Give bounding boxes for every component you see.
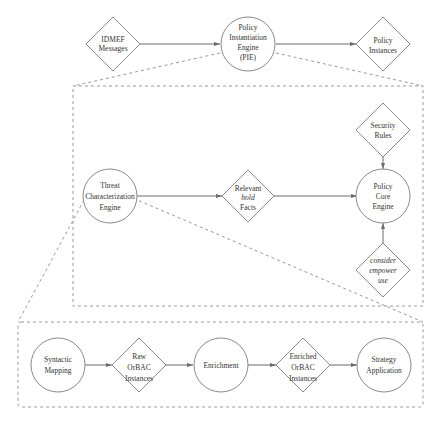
idmef-messages-node[interactable]: IDMEF Messages <box>86 17 140 71</box>
svg-text:Engine: Engine <box>372 202 394 211</box>
raw-orbac-instances-node[interactable]: Raw OrBAC Instances <box>112 338 166 392</box>
svg-text:hold: hold <box>241 193 255 202</box>
svg-text:OrBAC: OrBAC <box>127 363 150 372</box>
threat-characterization-engine-node[interactable]: Threat Characterization Engine <box>83 169 137 223</box>
strategy-application-node[interactable]: Strategy Application <box>357 338 411 392</box>
svg-text:Raw: Raw <box>132 352 146 361</box>
svg-text:Strategy: Strategy <box>372 355 397 364</box>
relevant-hold-facts-node[interactable]: Relevant hold Facts <box>222 170 274 222</box>
svg-text:Mapping: Mapping <box>44 366 71 375</box>
svg-text:Messages: Messages <box>98 44 127 53</box>
policy-instantiation-diagram: IDMEF Messages Policy Instantiation Engi… <box>0 0 442 426</box>
svg-text:Policy: Policy <box>373 36 392 45</box>
enriched-orbac-instances-node[interactable]: Enriched OrBAC Instances <box>276 338 330 392</box>
svg-text:Engine: Engine <box>99 203 121 212</box>
svg-text:Instances: Instances <box>369 46 397 55</box>
svg-text:empower: empower <box>369 266 397 275</box>
policy-core-engine-node[interactable]: Policy Core Engine <box>356 169 410 223</box>
consider-empower-use-node[interactable]: consider empower use <box>356 243 410 297</box>
svg-text:Instances: Instances <box>289 374 317 383</box>
svg-text:Facts: Facts <box>240 203 256 212</box>
pie-node[interactable]: Policy Instantiation Engine (PIE) <box>221 17 275 71</box>
svg-text:Relevant: Relevant <box>235 184 263 193</box>
svg-text:Instances: Instances <box>125 374 153 383</box>
svg-text:Characterization: Characterization <box>85 192 135 201</box>
svg-text:Rules: Rules <box>374 131 391 140</box>
svg-text:(PIE): (PIE) <box>240 53 257 62</box>
svg-text:use: use <box>378 276 389 285</box>
security-rules-node[interactable]: Security Rules <box>356 103 410 157</box>
svg-text:Security: Security <box>371 121 396 130</box>
svg-text:Policy: Policy <box>373 182 392 191</box>
svg-text:Instantiation: Instantiation <box>229 33 267 42</box>
svg-text:consider: consider <box>370 256 396 265</box>
svg-text:OrBAC: OrBAC <box>291 363 314 372</box>
syntactic-mapping-node[interactable]: Syntactic Mapping <box>31 338 85 392</box>
svg-text:Enrichment: Enrichment <box>204 361 240 370</box>
svg-text:Policy: Policy <box>238 23 257 32</box>
svg-text:Enriched: Enriched <box>289 352 316 361</box>
svg-text:Application: Application <box>366 366 402 375</box>
policy-instances-node[interactable]: Policy Instances <box>356 17 410 71</box>
svg-text:IDMEF: IDMEF <box>101 35 124 44</box>
svg-text:Syntactic: Syntactic <box>44 355 73 364</box>
svg-text:Threat: Threat <box>100 181 120 190</box>
svg-text:Core: Core <box>376 192 391 201</box>
enrichment-node[interactable]: Enrichment <box>194 338 248 392</box>
svg-text:Engine: Engine <box>237 43 259 52</box>
